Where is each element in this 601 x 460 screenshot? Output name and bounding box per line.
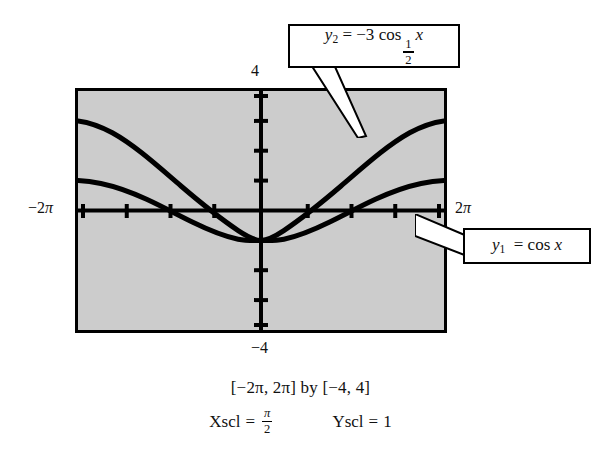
xscl-fraction: π2 bbox=[262, 407, 272, 436]
xscl-label: Xscl bbox=[209, 412, 240, 432]
x-min-pi-symbol: π bbox=[45, 199, 53, 216]
y-max-label: 4 bbox=[251, 62, 259, 80]
figure-caption: [−2π, 2π] by [−4, 4] Xscl = π2 Yscl = 1 bbox=[0, 378, 601, 436]
y1-subscript: 1 bbox=[499, 244, 505, 257]
y2-coefficient: −3 bbox=[356, 25, 374, 44]
y1-variable: x bbox=[555, 235, 563, 254]
y2-frac-numerator: 1 bbox=[403, 38, 413, 51]
y2-equation-callout: y2 = −3 cos12x bbox=[288, 24, 460, 68]
yscl-equals: = bbox=[369, 412, 379, 432]
y2-equals: = bbox=[342, 25, 352, 44]
yscl-value: 1 bbox=[383, 412, 392, 432]
y1-function: cos bbox=[528, 235, 551, 254]
xscl-numerator: π bbox=[262, 407, 272, 420]
y-min-label: −4 bbox=[251, 339, 268, 357]
y2-callout-leader bbox=[288, 60, 418, 138]
y2-fraction: 12 bbox=[403, 38, 413, 67]
y2-variable: x bbox=[416, 25, 424, 44]
y2-equation-text: y2 = −3 cos12x bbox=[325, 25, 423, 66]
caption-scales: Xscl = π2 Yscl = 1 bbox=[0, 407, 601, 436]
y1-equals: = bbox=[514, 235, 524, 254]
xscl-denominator: 2 bbox=[262, 423, 272, 436]
yscl-label: Yscl bbox=[332, 412, 363, 432]
y2-subscript: 2 bbox=[332, 34, 338, 47]
caption-window-range: [−2π, 2π] by [−4, 4] bbox=[0, 378, 601, 398]
y1-equation-callout: y1 = cos x bbox=[463, 228, 591, 264]
x-min-label: −2π bbox=[28, 199, 53, 217]
x-min-prefix: −2 bbox=[28, 199, 45, 216]
y2-function: cos bbox=[379, 25, 402, 44]
figure-container: 4 −4 −2π 2π y2 = −3 cos12x y1 = cos x [−… bbox=[0, 0, 601, 460]
y2-frac-denominator: 2 bbox=[403, 54, 413, 67]
xscl-equals: = bbox=[246, 412, 256, 432]
y1-equation-text: y1 = cos x bbox=[492, 235, 562, 256]
xscl-item: Xscl = π2 bbox=[209, 407, 274, 436]
yscl-item: Yscl = 1 bbox=[332, 412, 391, 432]
